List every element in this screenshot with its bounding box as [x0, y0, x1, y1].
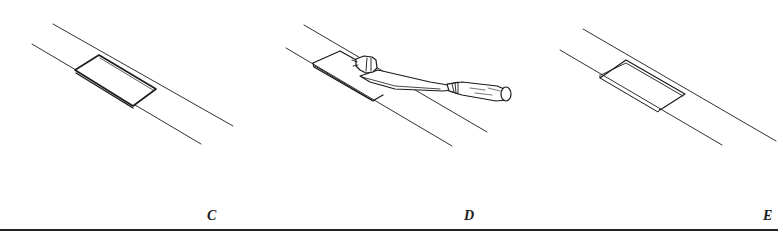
chisel-handle	[447, 82, 510, 101]
panel-c-drawing	[32, 24, 233, 144]
recess-side	[600, 75, 660, 112]
panel-d-drawing	[286, 25, 511, 146]
panel-label-d: D	[464, 208, 474, 224]
bottom-rule	[0, 229, 778, 231]
panel-label-c: C	[207, 208, 216, 224]
panel-label-e: E	[763, 208, 772, 224]
panel-e-drawing	[560, 29, 776, 145]
illustration	[0, 0, 783, 251]
chisel-handle-end	[501, 87, 511, 101]
guide-line-lower	[560, 50, 722, 145]
